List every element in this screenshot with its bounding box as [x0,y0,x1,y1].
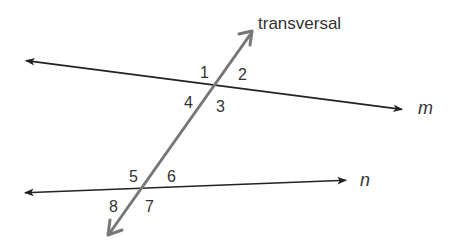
angle-1-label: 1 [200,64,209,81]
line-n [25,180,346,193]
angle-7-label: 7 [145,198,154,215]
angle-6-label: 6 [167,168,176,185]
transversal-label: transversal [258,14,341,33]
diagram-canvas: transversal m n 1 2 3 4 5 6 7 8 [0,0,457,250]
angle-2-label: 2 [238,66,247,83]
angle-4-label: 4 [184,94,193,111]
line-m-label: m [418,98,433,118]
angle-3-label: 3 [216,98,225,115]
angle-8-label: 8 [109,198,118,215]
transversal-line [108,31,252,235]
angle-5-label: 5 [129,168,138,185]
transversal-diagram: transversal m n 1 2 3 4 5 6 7 8 [0,0,457,250]
line-n-label: n [360,170,370,190]
